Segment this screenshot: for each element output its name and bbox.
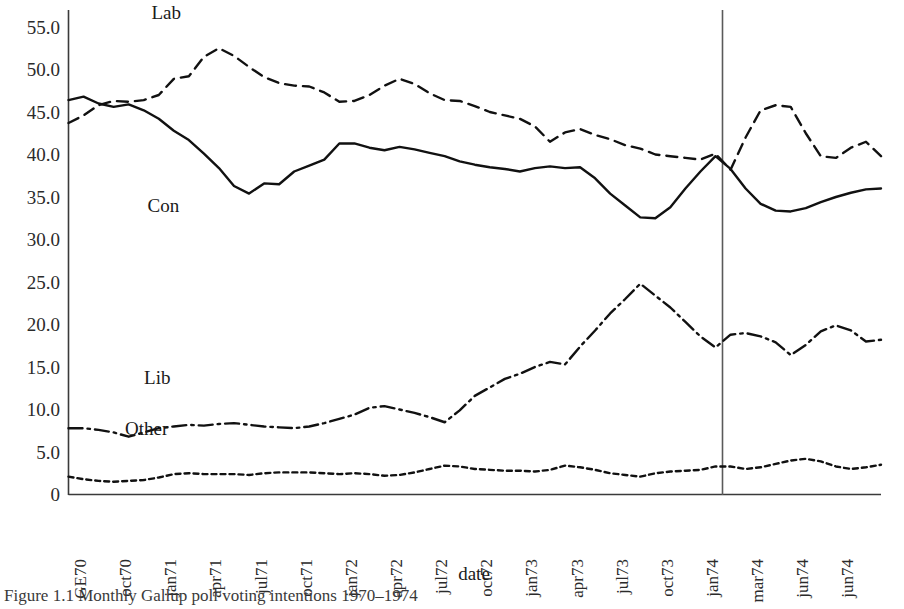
y-tick-label: 25.0 bbox=[27, 272, 60, 293]
y-tick-label: 40.0 bbox=[27, 144, 60, 165]
y-tick-label: 45.0 bbox=[27, 102, 60, 123]
y-axis-tick-labels: 05.010.015.020.025.030.035.040.045.050.0… bbox=[27, 17, 60, 506]
series-label-other: Other bbox=[125, 418, 169, 439]
y-tick-label: 30.0 bbox=[27, 229, 60, 250]
series-annotation-labels: LabConLibOther bbox=[125, 2, 181, 440]
x-axis-title: date bbox=[458, 563, 490, 584]
y-tick-label: 20.0 bbox=[27, 314, 60, 335]
y-tick-label: 15.0 bbox=[27, 357, 60, 378]
y-tick-label: 5.0 bbox=[36, 442, 60, 463]
series-label-con: Con bbox=[147, 195, 179, 216]
y-tick-label: 50.0 bbox=[27, 59, 60, 80]
series-line-lib bbox=[69, 284, 882, 437]
y-tick-label: 10.0 bbox=[27, 399, 60, 420]
y-tick-label: 55.0 bbox=[27, 17, 60, 38]
series-line-lab bbox=[69, 48, 882, 170]
series-label-lib: Lib bbox=[144, 367, 170, 388]
y-tick-label: 35.0 bbox=[27, 187, 60, 208]
data-series-group bbox=[69, 48, 882, 482]
figure-caption: Figure 1.1 Monthly Gallup poll voting in… bbox=[4, 586, 418, 606]
series-label-lab: Lab bbox=[152, 2, 182, 23]
figure-caption-strip: Figure 1.1 Monthly Gallup poll voting in… bbox=[0, 586, 904, 609]
voting-intentions-line-chart: 05.010.015.020.025.030.035.040.045.050.0… bbox=[0, 0, 904, 609]
y-tick-label: 0 bbox=[51, 484, 61, 505]
chart-figure: 05.010.015.020.025.030.035.040.045.050.0… bbox=[0, 0, 904, 609]
series-line-other bbox=[69, 459, 882, 482]
